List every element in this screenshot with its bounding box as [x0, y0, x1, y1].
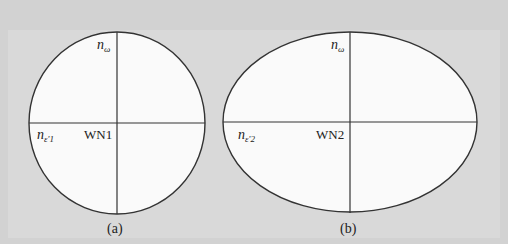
- panel-b: nω nε'2 WN2 (b): [223, 32, 477, 237]
- center-label-wn2: WN2: [316, 127, 344, 142]
- panel-a: nω nε'1 WN1 (a): [29, 32, 205, 237]
- index-surface-diagram: nω nε'1 WN1 (a) nω nε'2 WN2 (b): [0, 0, 508, 244]
- caption-b: (b): [340, 221, 357, 237]
- caption-a: (a): [107, 221, 123, 237]
- center-label-wn1: WN1: [84, 127, 112, 142]
